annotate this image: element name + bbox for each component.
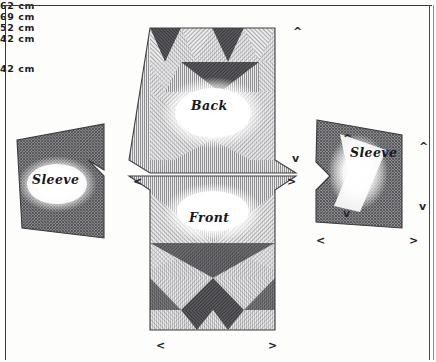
hem-width-arrow-left: < [156, 340, 165, 351]
sleeve-right-shape [310, 112, 410, 234]
body-height-arrow-up: ^ [293, 26, 302, 37]
sleeve-right-label: Sleeve [350, 145, 397, 160]
pattern-diagram-page: Sleeve Back Front Sleeve ^ 62 cm v < 69 … [0, 0, 436, 362]
back-panel-label: Back [191, 98, 228, 113]
shoulder-width-arrow-right: > [287, 176, 296, 187]
sleeve-height-arrow-down: v [419, 201, 426, 212]
front-panel-shape [125, 176, 300, 334]
sleeve-left-label: Sleeve [32, 172, 79, 187]
body-height-arrow-down: v [292, 153, 299, 164]
front-panel-label: Front [189, 210, 229, 225]
sleeve-cuff-arrow-left: < [316, 235, 325, 246]
hem-width-arrow-right: > [268, 340, 277, 351]
sleeve-length-arrow-up: ^ [343, 133, 352, 144]
sleeve-cuff-arrow-right: > [409, 235, 418, 246]
shoulder-width-arrow-left: < [133, 176, 142, 187]
sleeve-length-arrow-down: v [343, 208, 350, 219]
sleeve-height-arrow-up: ^ [419, 141, 428, 152]
